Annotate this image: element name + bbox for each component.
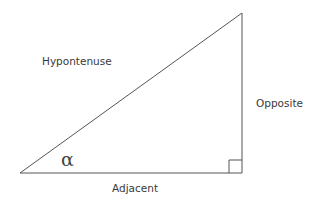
right-triangle-diagram: Hypontenuse Opposite Adjacent α — [0, 0, 316, 206]
opposite-label: Opposite — [256, 98, 303, 109]
hypotenuse-label: Hypontenuse — [42, 56, 112, 67]
hypotenuse-side — [20, 13, 242, 173]
adjacent-label: Adjacent — [112, 183, 158, 194]
angle-alpha-label: α — [61, 150, 74, 169]
right-angle-marker — [229, 160, 242, 173]
